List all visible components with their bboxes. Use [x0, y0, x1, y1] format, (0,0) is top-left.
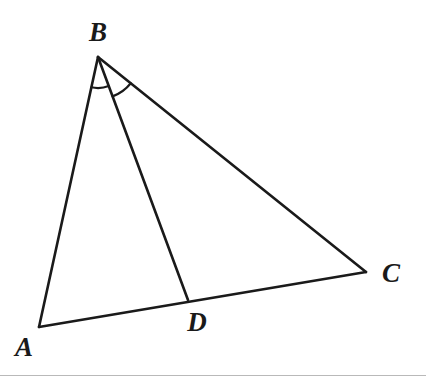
vertex-label-b: B	[89, 19, 107, 46]
triangle-diagram-canvas	[0, 0, 426, 381]
segment-ab	[39, 57, 98, 327]
angle-arc-abd	[91, 86, 108, 88]
vertex-label-a: A	[15, 334, 33, 361]
vertex-label-c: C	[382, 260, 400, 287]
vertex-label-d: D	[187, 309, 207, 336]
page-divider-rule	[0, 375, 426, 376]
geometry-figure: A B C D	[0, 0, 426, 381]
angle-arc-dbc	[113, 83, 131, 96]
